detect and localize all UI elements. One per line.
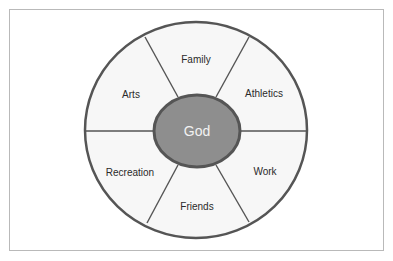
segment-label-recreation: Recreation: [106, 167, 154, 178]
segment-label-athletics: Athletics: [245, 88, 283, 99]
segment-label-arts: Arts: [122, 89, 140, 100]
segment-label-family: Family: [181, 54, 210, 65]
segment-label-friends: Friends: [180, 201, 213, 212]
life-wheel-diagram: God Family Athletics Work Friends Recrea…: [0, 0, 393, 261]
center-label: God: [184, 123, 210, 139]
segment-label-work: Work: [253, 166, 277, 177]
